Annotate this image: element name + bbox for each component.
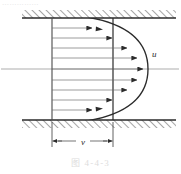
bottom-wall-hatching [22, 120, 176, 128]
mean-velocity-label: v [81, 137, 85, 147]
figure-container: …………… [0, 0, 181, 174]
top-wall-hatching [22, 10, 176, 18]
velocity-arrow-group [52, 28, 143, 110]
top-wall-group [22, 10, 176, 18]
figure-caption: 图 4-4-3 [0, 156, 181, 169]
bottom-wall-group [22, 120, 176, 128]
velocity-profile-label: u [152, 49, 157, 59]
velocity-profile-diagram: u v [0, 0, 181, 174]
